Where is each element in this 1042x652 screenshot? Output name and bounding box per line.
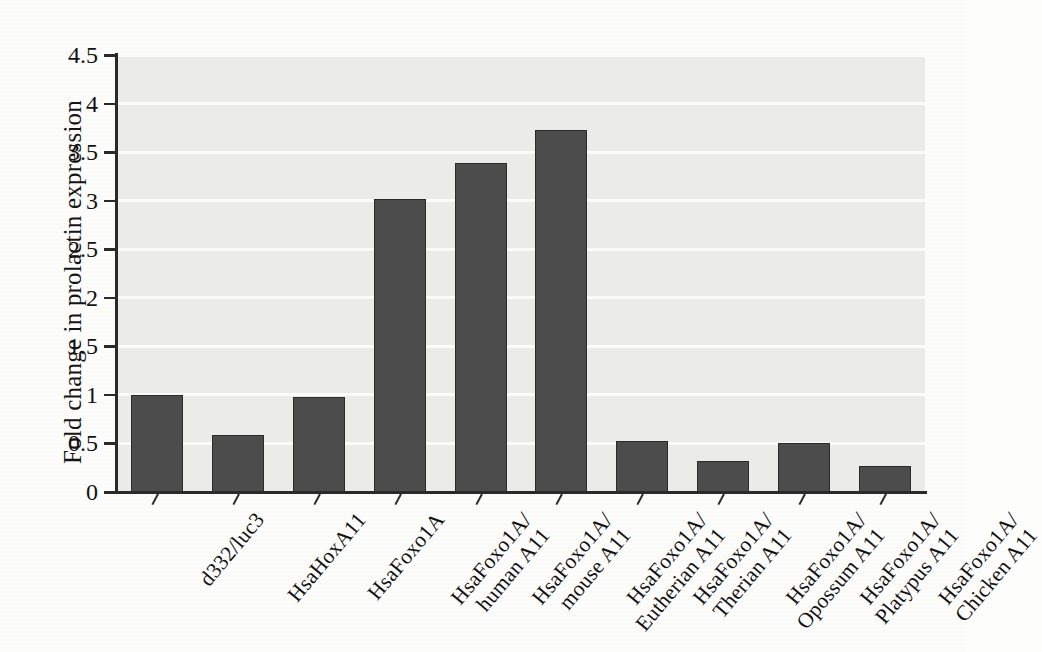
bar bbox=[293, 397, 345, 492]
x-axis-label: HsaFoxo1A/human A11 bbox=[446, 508, 555, 625]
bar bbox=[616, 441, 668, 492]
bar bbox=[131, 395, 183, 492]
y-axis-tick-label: 2.5 bbox=[0, 237, 98, 261]
y-axis-tick bbox=[104, 394, 115, 397]
x-axis-tick bbox=[313, 494, 320, 506]
y-axis-tick bbox=[104, 297, 115, 300]
x-axis-label: HsaFoxo1A bbox=[363, 508, 449, 604]
bar bbox=[212, 435, 264, 492]
plot-area bbox=[117, 55, 925, 492]
x-axis-tick bbox=[637, 494, 644, 506]
bar bbox=[455, 163, 507, 492]
x-axis-tick bbox=[798, 494, 805, 506]
y-axis-tick bbox=[104, 345, 115, 348]
y-axis-tick-label: 0.5 bbox=[0, 431, 98, 455]
bar bbox=[859, 466, 911, 492]
y-axis-tick-label: 3 bbox=[0, 189, 98, 213]
y-axis-tick bbox=[104, 200, 115, 203]
x-axis-label: HsaHoxA11 bbox=[283, 508, 371, 607]
x-axis-tick bbox=[394, 494, 401, 506]
gridline bbox=[117, 248, 925, 251]
y-axis-tick-label: 0 bbox=[0, 480, 98, 504]
y-axis-tick-label: 1.5 bbox=[0, 334, 98, 358]
y-axis-tick bbox=[104, 442, 115, 445]
gridline bbox=[117, 296, 925, 299]
gridline bbox=[117, 199, 925, 202]
y-axis-tick bbox=[104, 491, 115, 494]
y-axis-tick-label: 4.5 bbox=[0, 43, 98, 67]
x-axis-tick bbox=[879, 494, 886, 506]
gridline bbox=[117, 102, 925, 105]
x-axis-tick bbox=[717, 494, 724, 506]
x-axis-tick bbox=[475, 494, 482, 506]
gridline bbox=[117, 393, 925, 396]
bar bbox=[374, 199, 426, 492]
y-axis-tick-label: 4 bbox=[0, 92, 98, 116]
gridline bbox=[117, 151, 925, 154]
gridline bbox=[117, 54, 925, 57]
y-axis-tick-label: 3.5 bbox=[0, 140, 98, 164]
gridline bbox=[117, 345, 925, 348]
y-axis-tick bbox=[104, 103, 115, 106]
y-axis-tick-label: 1 bbox=[0, 383, 98, 407]
y-axis-tick-label: 2 bbox=[0, 286, 98, 310]
y-axis-line bbox=[115, 53, 118, 494]
y-axis-tick bbox=[104, 248, 115, 251]
bar bbox=[778, 443, 830, 492]
x-axis-tick bbox=[556, 494, 563, 506]
y-axis-tick bbox=[104, 151, 115, 154]
x-axis-tick bbox=[152, 494, 159, 506]
bar bbox=[697, 461, 749, 492]
x-axis-label: d332/luc3 bbox=[195, 508, 270, 591]
x-axis-tick bbox=[233, 494, 240, 506]
bar bbox=[535, 130, 587, 492]
y-axis-tick bbox=[104, 54, 115, 57]
